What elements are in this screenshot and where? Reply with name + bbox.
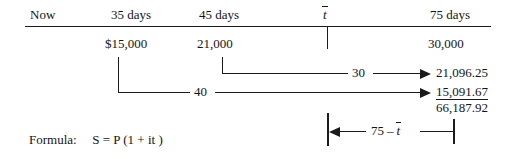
flow-15000-arrowhead — [420, 88, 431, 98]
flow-21000-run-line-left — [222, 73, 348, 74]
flow-21000-run-line-right — [373, 73, 423, 74]
formula-open-paren: (1 + — [123, 132, 144, 147]
measure-line-left — [340, 131, 366, 132]
timeline-diagram-figure: Now 35 days 45 days t 75 days $15,000 21… — [0, 0, 521, 159]
measure-right-endbar — [453, 119, 455, 144]
formula-caption: Formula: S = P (1 + it ) — [29, 133, 163, 146]
flow-21000-result: 21,096.25 — [436, 66, 488, 79]
formula-s: S — [92, 132, 99, 147]
measure-left-arrowhead — [329, 127, 340, 137]
flow-15000-days-label: 40 — [194, 85, 207, 98]
timeline-header-t-bar: t — [323, 8, 327, 21]
flow-15000-result: 15,091.67 — [436, 85, 488, 100]
timeline-tick-t-bar — [327, 27, 328, 49]
timeline-axis-line — [25, 26, 491, 27]
formula-p: P — [113, 132, 120, 147]
flow-21000-drop-line — [222, 57, 223, 74]
flow-15000-run-line-left — [118, 92, 190, 93]
formula-close-paren: ) — [158, 132, 162, 147]
measure-label: 75–t — [371, 124, 400, 137]
timeline-header-now: Now — [30, 8, 55, 21]
amount-21000: 21,000 — [197, 37, 233, 50]
flow-21000-arrowhead — [420, 69, 431, 79]
total-value: 66,187.92 — [436, 101, 488, 114]
flow-21000-days-label: 30 — [352, 66, 365, 79]
timeline-header-35-days: 35 days — [111, 8, 151, 21]
measure-t-bar: t — [397, 124, 401, 137]
amount-30000: 30,000 — [428, 37, 464, 50]
measure-minus: – — [387, 123, 394, 138]
timeline-header-75-days: 75 days — [430, 8, 470, 21]
measure-line-right — [420, 131, 454, 132]
flow-15000-drop-line — [118, 57, 119, 93]
amount-15000: $15,000 — [105, 37, 147, 50]
t-bar-symbol: t — [323, 8, 327, 21]
measure-75: 75 — [371, 123, 384, 138]
formula-equals: = — [103, 132, 110, 147]
formula-it: it — [148, 132, 155, 147]
formula-label: Formula: — [29, 132, 77, 147]
timeline-header-45-days: 45 days — [199, 8, 239, 21]
flow-15000-run-line-right — [215, 92, 423, 93]
